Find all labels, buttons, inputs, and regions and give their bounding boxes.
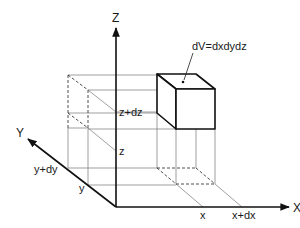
y-axis-label: Y <box>16 126 24 140</box>
volume-element-cube <box>157 74 215 129</box>
dashed-floor-projection <box>157 168 215 184</box>
y-dy-label: y+dy <box>34 163 58 175</box>
cube-center-dot <box>182 81 185 84</box>
x-dx-label: x+dx <box>232 209 256 221</box>
z-axis-label: Z <box>112 11 119 25</box>
x-axis-label: X <box>293 201 300 215</box>
axes <box>28 28 289 207</box>
volume-label: dV=dxdydz <box>192 40 247 52</box>
construction-lines <box>68 75 242 207</box>
dashed-yz-projection <box>68 75 88 129</box>
z-dz-label: z+dz <box>119 106 143 118</box>
z-label: z <box>119 145 125 157</box>
y-label: y <box>79 182 85 194</box>
x-label: x <box>200 209 206 221</box>
volume-element-diagram: Z X Y dV=dxdydz z+dz z y+dy y x x+dx <box>0 0 300 228</box>
